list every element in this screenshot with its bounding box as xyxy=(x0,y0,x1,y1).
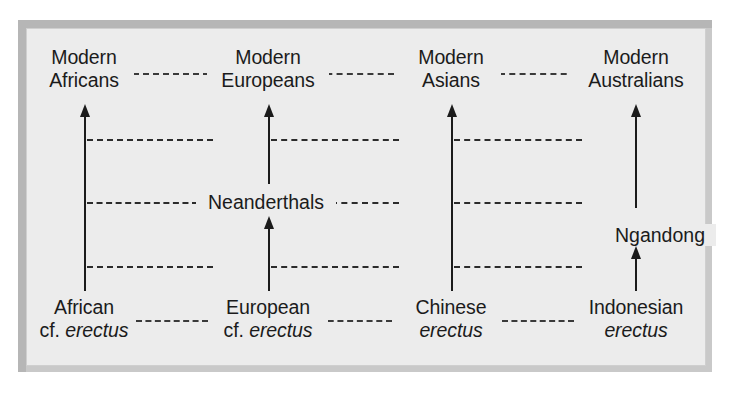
figure-root: Modern Africans Modern Europeans Modern … xyxy=(0,0,736,395)
node-african-erectus[interactable]: African cf. erectus xyxy=(32,296,136,342)
ancestry-arrow-african xyxy=(84,116,86,291)
node-modern-europeans-line2: Europeans xyxy=(207,69,329,92)
geneflow-dash-upper-2 xyxy=(271,139,399,141)
figure-frame-shadow-bottom xyxy=(26,366,712,372)
geneflow-dash-bottom-africa-europe xyxy=(136,320,208,322)
geneflow-dash-top-africa-europe xyxy=(133,73,209,75)
node-african-erectus-prefix: cf. xyxy=(40,319,66,341)
node-modern-africans[interactable]: Modern Africans xyxy=(34,46,134,92)
geneflow-dash-lower-2 xyxy=(271,266,399,268)
node-european-erectus-prefix: cf. xyxy=(224,319,250,341)
figure-frame-shadow-right xyxy=(706,28,712,372)
node-modern-europeans-line1: Modern xyxy=(207,46,329,69)
geneflow-dash-upper-1 xyxy=(87,139,213,141)
geneflow-dash-lower-1 xyxy=(87,266,213,268)
ancestry-arrowhead-european-upper xyxy=(264,104,274,117)
node-european-erectus-line1: European xyxy=(208,296,328,319)
geneflow-dash-bottom-asia-australia xyxy=(502,320,574,322)
diagram-canvas: Modern Africans Modern Europeans Modern … xyxy=(26,28,706,366)
geneflow-dash-bottom-europe-asia xyxy=(318,320,392,322)
geneflow-dash-middle-3 xyxy=(454,202,582,204)
geneflow-dash-lower-3 xyxy=(454,266,582,268)
geneflow-dash-middle-1 xyxy=(87,202,198,204)
ancestry-arrowhead-asian xyxy=(447,104,457,117)
node-european-erectus[interactable]: European cf. erectus xyxy=(208,296,328,342)
ancestry-arrow-australian-lower xyxy=(635,258,637,291)
node-neanderthals[interactable]: Neanderthals xyxy=(196,191,336,213)
node-modern-europeans[interactable]: Modern Europeans xyxy=(207,46,329,92)
node-indonesian-erectus-species: erectus xyxy=(604,319,667,341)
ancestry-arrowhead-african xyxy=(80,104,90,117)
node-chinese-erectus[interactable]: Chinese erectus xyxy=(400,296,502,342)
node-modern-asians-line1: Modern xyxy=(401,46,501,69)
node-european-erectus-line2: cf. erectus xyxy=(208,319,328,342)
node-chinese-erectus-species: erectus xyxy=(419,319,482,341)
geneflow-dash-middle-2 xyxy=(331,202,399,204)
ancestry-arrowhead-european-lower xyxy=(264,216,274,229)
node-european-erectus-species: erectus xyxy=(249,319,312,341)
ancestry-arrow-european-lower xyxy=(268,228,270,291)
node-modern-africans-line1: Modern xyxy=(34,46,134,69)
node-ngandong[interactable]: Ngandong xyxy=(604,224,716,246)
node-african-erectus-line2: cf. erectus xyxy=(32,319,136,342)
node-ngandong-label: Ngandong xyxy=(615,224,705,246)
geneflow-dash-upper-3 xyxy=(454,139,582,141)
ancestry-arrowhead-australian-upper xyxy=(631,104,641,117)
node-chinese-erectus-line2: erectus xyxy=(400,319,502,342)
node-african-erectus-line1: African xyxy=(32,296,136,319)
node-african-erectus-species: erectus xyxy=(65,319,128,341)
node-chinese-erectus-line1: Chinese xyxy=(400,296,502,319)
node-neanderthals-label: Neanderthals xyxy=(208,191,324,213)
geneflow-dash-top-asia-australia xyxy=(499,73,577,75)
node-indonesian-erectus[interactable]: Indonesian erectus xyxy=(574,296,698,342)
ancestry-arrow-australian-upper xyxy=(635,116,637,208)
node-modern-australians-line2: Australians xyxy=(571,69,701,92)
node-modern-asians[interactable]: Modern Asians xyxy=(401,46,501,92)
ancestry-arrowhead-australian-lower xyxy=(631,246,641,259)
node-modern-australians-line1: Modern xyxy=(571,46,701,69)
node-indonesian-erectus-line1: Indonesian xyxy=(574,296,698,319)
ancestry-arrow-asian xyxy=(451,116,453,291)
node-indonesian-erectus-line2: erectus xyxy=(574,319,698,342)
node-modern-africans-line2: Africans xyxy=(34,69,134,92)
node-modern-australians[interactable]: Modern Australians xyxy=(571,46,701,92)
ancestry-arrow-european-upper xyxy=(268,116,270,184)
node-modern-asians-line2: Asians xyxy=(401,69,501,92)
